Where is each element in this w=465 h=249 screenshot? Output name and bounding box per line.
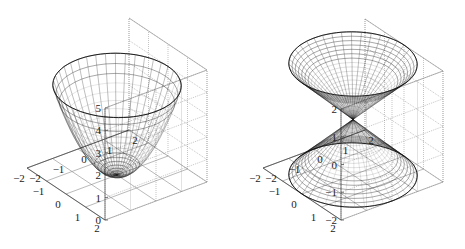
tick-label: 1 <box>311 211 317 223</box>
tick-label: −2 <box>29 172 41 184</box>
tick-label: 2 <box>368 134 374 146</box>
tick-label: 0 <box>291 198 297 210</box>
tick-label: 2 <box>96 169 102 181</box>
tick-label: 1 <box>107 144 113 156</box>
paraboloid-surface-plot: 012345210−1−2−2−1012 <box>13 18 207 234</box>
axes-box-walls <box>27 18 207 220</box>
tick-label: 5 <box>96 102 102 114</box>
tick-label: −1 <box>53 163 65 175</box>
tick-label: 4 <box>96 124 102 136</box>
double-cone-mesh <box>289 32 417 207</box>
tick-label: −1 <box>325 186 337 198</box>
tick-label: 0 <box>332 159 338 171</box>
tick-label: −1 <box>269 185 281 197</box>
tick-label: −2 <box>249 172 261 184</box>
tick-label: 2 <box>330 222 336 234</box>
tick-label: −1 <box>289 163 301 175</box>
figure-canvas: 012345210−1−2−2−1012 −2−1012210−1−2−2−10… <box>0 0 465 249</box>
double-cone-surface-plot: −2−1012210−1−2−2−1012 <box>249 19 443 234</box>
tick-label: 1 <box>75 211 81 223</box>
tick-label: −2 <box>13 172 25 184</box>
tick-label: 1 <box>96 192 102 204</box>
tick-label: 2 <box>132 134 138 146</box>
tick-label: −2 <box>265 172 277 184</box>
tick-label: 0 <box>317 153 323 165</box>
tick-label: 2 <box>332 103 338 115</box>
tick-label: 1 <box>332 131 338 143</box>
tick-label: 3 <box>96 147 102 159</box>
tick-label: −1 <box>33 185 45 197</box>
tick-label: 0 <box>55 198 61 210</box>
paraboloid-mesh <box>53 53 181 178</box>
tick-label: 0 <box>81 153 87 165</box>
tick-label: 2 <box>94 222 100 234</box>
tick-label: 1 <box>343 144 349 156</box>
